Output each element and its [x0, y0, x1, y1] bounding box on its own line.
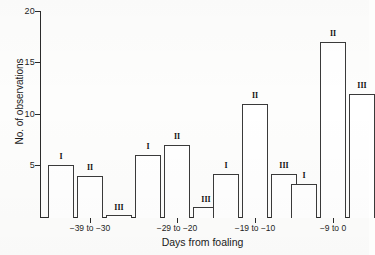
x-group-label-1: −39 to −30	[50, 223, 130, 233]
y-tick-20	[35, 11, 40, 12]
bar-g4-III	[349, 94, 375, 218]
bar-label-g3-I: I	[213, 162, 239, 170]
x-axis-title: Days from foaling	[40, 236, 365, 248]
bar-label-g3-II: II	[242, 92, 268, 100]
bar-g4-I	[291, 184, 317, 218]
y-tick-5	[35, 165, 40, 166]
y-axis-line	[40, 11, 41, 218]
x-group-label-3: −19 to −10	[215, 223, 295, 233]
y-tick-label-15: 15	[3, 58, 35, 67]
bar-g2-II	[164, 145, 190, 218]
bar-label-g2-II: II	[164, 133, 190, 141]
bar-g1-I	[48, 165, 74, 218]
bar-label-g4-III: III	[349, 82, 375, 90]
y-tick-label-20: 20	[3, 7, 35, 16]
y-tick-10	[35, 114, 40, 115]
bar-g1-II	[77, 176, 103, 218]
bar-label-g1-I: I	[48, 153, 74, 161]
bar-g1-III	[106, 215, 132, 218]
x-group-label-4: −9 to 0	[295, 223, 371, 233]
x-group-label-2: −29 to −20	[137, 223, 217, 233]
y-axis-title: No. of observations	[14, 27, 25, 177]
bar-label-g4-I: I	[291, 172, 317, 180]
bar-label-g1-II: II	[77, 164, 103, 172]
bar-label-g2-I: I	[135, 143, 161, 151]
bar-g3-II	[242, 104, 268, 218]
y-tick-15	[35, 62, 40, 63]
bar-g3-I	[213, 174, 239, 218]
bar-label-g1-III: III	[106, 204, 132, 212]
bar-g2-I	[135, 155, 161, 218]
bar-g4-II	[320, 42, 346, 218]
bar-label-g4-II: II	[320, 30, 346, 38]
bar-label-g3-III: III	[271, 162, 297, 170]
y-tick-label-5: 5	[3, 161, 35, 170]
y-tick-label-10: 10	[3, 110, 35, 119]
